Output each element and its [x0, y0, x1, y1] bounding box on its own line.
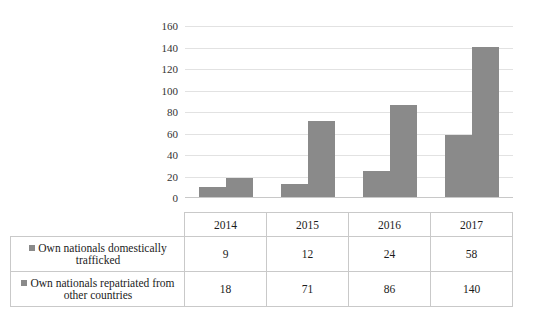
bar-repatriated-2014 [226, 178, 253, 197]
table-header-2017: 2017 [431, 213, 513, 237]
legend-item-domestic: Own nationals domestically trafficked [11, 237, 185, 272]
plot-area [185, 26, 513, 198]
chart-title-clipped [0, 0, 537, 9]
table-cell-repatriated-2014: 18 [185, 272, 267, 307]
table-header-2015: 2015 [267, 213, 349, 237]
table-cell-repatriated-2016: 86 [349, 272, 431, 307]
table-row: Own nationals domestically trafficked 9 … [11, 237, 513, 272]
y-axis-tick: 20 [138, 171, 178, 182]
table-cell-domestic-2015: 12 [267, 237, 349, 272]
bar-group-2016 [349, 26, 431, 197]
bar-domestic-2016 [363, 171, 390, 197]
table-cell-repatriated-2015: 71 [267, 272, 349, 307]
legend-swatch-icon [29, 245, 35, 251]
y-axis-tick: 100 [138, 85, 178, 96]
bar-domestic-2017 [445, 135, 472, 197]
bar-domestic-2014 [199, 187, 226, 197]
table-cell-domestic-2016: 24 [349, 237, 431, 272]
legend-item-repatriated: Own nationals repatriated from other cou… [11, 272, 185, 307]
bar-group-2017 [431, 26, 513, 197]
legend-swatch-icon [21, 280, 27, 286]
y-axis-tick: 40 [138, 150, 178, 161]
table-cell-repatriated-2017: 140 [431, 272, 513, 307]
bar-repatriated-2017 [472, 47, 499, 197]
table-corner-cell [11, 213, 185, 237]
bar-repatriated-2016 [390, 105, 417, 197]
y-axis-tick: 60 [138, 128, 178, 139]
chart-data-table: 2014 2015 2016 2017 Own nationals domest… [10, 212, 513, 307]
legend-label-domestic: Own nationals domestically trafficked [38, 242, 166, 267]
y-axis-tick: 160 [138, 21, 178, 32]
bar-repatriated-2015 [308, 121, 335, 197]
legend-label-repatriated: Own nationals repatriated from other cou… [30, 277, 174, 302]
table-row: Own nationals repatriated from other cou… [11, 272, 513, 307]
x-axis-line [185, 197, 513, 198]
y-axis-tick: 120 [138, 64, 178, 75]
y-axis-tick: 80 [138, 107, 178, 118]
y-axis: 160 140 120 100 80 60 40 20 0 [138, 26, 182, 198]
y-axis-tick: 140 [138, 42, 178, 53]
table-header-row: 2014 2015 2016 2017 [11, 213, 513, 237]
bar-group-2015 [267, 26, 349, 197]
table-cell-domestic-2017: 58 [431, 237, 513, 272]
bar-domestic-2015 [281, 184, 308, 197]
table-header-2016: 2016 [349, 213, 431, 237]
table-cell-domestic-2014: 9 [185, 237, 267, 272]
bar-chart: 160 140 120 100 80 60 40 20 0 [0, 9, 537, 212]
bar-group-2014 [185, 26, 267, 197]
table-header-2014: 2014 [185, 213, 267, 237]
y-axis-tick: 0 [138, 193, 178, 204]
